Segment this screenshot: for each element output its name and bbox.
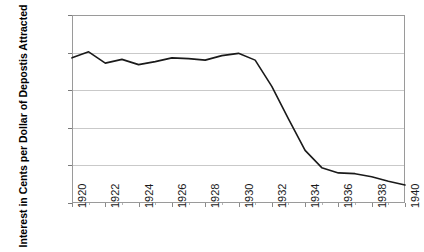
x-tick-mark (405, 203, 406, 207)
x-tick-mark (139, 203, 140, 207)
y-tick-mark (68, 203, 72, 204)
x-tick-mark (305, 203, 306, 207)
y-axis-title: Interest in Cents per Dollar of Depostis… (0, 0, 46, 252)
x-tick-mark-minor (388, 203, 389, 205)
x-tick-mark (205, 203, 206, 207)
x-tick-mark-minor (222, 203, 223, 205)
x-tick-mark (172, 203, 173, 207)
data-line-interest (72, 52, 405, 185)
x-tick-mark-minor (288, 203, 289, 205)
x-tick-mark-minor (355, 203, 356, 205)
x-tick-mark (72, 203, 73, 207)
x-tick-mark-minor (322, 203, 323, 205)
x-tick-mark-minor (89, 203, 90, 205)
x-tick-mark (338, 203, 339, 207)
x-tick-mark-minor (155, 203, 156, 205)
x-tick-label: 1940 (409, 184, 421, 208)
x-tick-mark (372, 203, 373, 207)
x-tick-mark-minor (189, 203, 190, 205)
x-tick-mark-minor (255, 203, 256, 205)
chart-figure: Interest in Cents per Dollar of Depostis… (0, 0, 424, 252)
x-tick-mark (272, 203, 273, 207)
data-series-layer (72, 15, 405, 203)
x-tick-mark-minor (122, 203, 123, 205)
x-tick-mark (239, 203, 240, 207)
x-tick-mark (105, 203, 106, 207)
